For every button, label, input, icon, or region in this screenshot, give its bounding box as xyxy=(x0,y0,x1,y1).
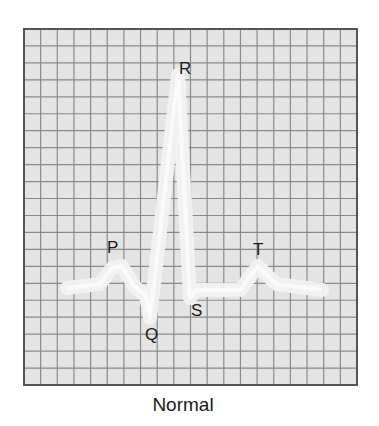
ecg-figure: RPTSQ Normal xyxy=(0,0,379,426)
wave-label-p: P xyxy=(107,239,118,256)
wave-label-q: Q xyxy=(145,326,158,343)
figure-caption: Normal xyxy=(0,394,366,416)
wave-label-t: T xyxy=(253,241,263,258)
wave-label-s: S xyxy=(191,302,202,319)
wave-label-r: R xyxy=(179,60,191,77)
